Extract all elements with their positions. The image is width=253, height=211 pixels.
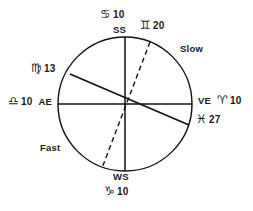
label-virgo: ♍ 13 (31, 62, 56, 74)
label-autumnal-equinox: ♎ 10 AE (8, 95, 52, 107)
label-winter-solstice-code: WS (113, 172, 129, 182)
capricorn-degree: 10 (117, 187, 129, 197)
pisces-icon: ♓ (196, 113, 207, 125)
cancer-degree: 10 (113, 10, 125, 20)
label-summer-solstice-code: SS (113, 25, 126, 35)
label-pisces: ♓ 27 (196, 113, 221, 125)
label-capricorn: ♑ 10 (104, 185, 129, 197)
pisces-degree: 27 (209, 115, 221, 125)
autumnal-equinox-code: AE (39, 97, 53, 107)
label-vernal-equinox: VE ♈ 10 (198, 94, 242, 106)
diagram-page: ♋ 10 SS ♊ 20 Slow ♍ 13 ♎ 10 AE VE ♈ 10 ♓… (0, 0, 253, 211)
label-gemini: ♊ 20 (140, 19, 165, 31)
label-fast: Fast (40, 143, 60, 153)
virgo-degree: 13 (44, 64, 56, 74)
libra-icon: ♎ (8, 95, 19, 107)
apsides-line (70, 74, 189, 125)
vernal-equinox-code: VE (198, 96, 211, 106)
capricorn-icon: ♑ (104, 185, 115, 197)
cancer-icon: ♋ (100, 8, 111, 20)
label-summer-solstice-sign: ♋ 10 (100, 8, 125, 20)
gemini-icon: ♊ (140, 19, 151, 31)
virgo-icon: ♍ (31, 62, 42, 74)
libra-degree: 10 (21, 97, 33, 107)
label-slow: Slow (180, 44, 203, 54)
aries-icon: ♈ (217, 94, 228, 106)
gemini-degree: 20 (153, 21, 165, 31)
aries-degree: 10 (230, 96, 242, 106)
